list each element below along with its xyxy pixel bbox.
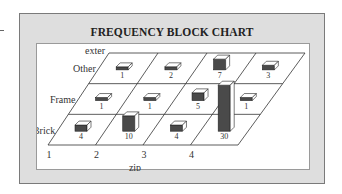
block-value: 7: [218, 71, 222, 80]
data-block: 1: [144, 94, 160, 111]
block-value: 1: [148, 102, 152, 111]
block-value: 4: [174, 132, 178, 141]
y-axis-title: exter: [85, 45, 106, 56]
block-chart-svg: exterOtherFrameBrick1234zip1273115141043…: [37, 44, 311, 171]
chart-title: FREQUENCY BLOCK CHART: [20, 26, 324, 38]
data-block: 4: [75, 121, 91, 141]
data-block: 30: [218, 81, 234, 141]
row-label-other: Other: [73, 63, 96, 74]
block-value: 2: [169, 71, 173, 80]
data-block: 4: [170, 121, 186, 141]
axis-tick-mark: [0, 30, 4, 31]
data-block: 2: [165, 63, 181, 80]
block-value: 5: [196, 102, 200, 111]
data-block: 3: [262, 61, 278, 80]
data-block: 1: [240, 94, 256, 111]
col-label-1: 1: [46, 149, 51, 160]
row-label-brick: Brick: [37, 125, 55, 136]
block-value: 1: [244, 102, 248, 111]
plot-area: exterOtherFrameBrick1234zip1273115141043…: [36, 43, 310, 170]
data-block: 1: [116, 63, 132, 80]
data-block: 1: [96, 94, 112, 111]
col-label-4: 4: [189, 149, 194, 160]
x-axis-title: zip: [129, 162, 141, 171]
data-block: 10: [123, 112, 139, 141]
block-value: 1: [120, 71, 124, 80]
data-block: 7: [214, 55, 230, 80]
chart-frame: FREQUENCY BLOCK CHART exterOtherFrameBri…: [19, 13, 325, 184]
row-label-frame: Frame: [50, 94, 76, 105]
col-label-2: 2: [94, 149, 99, 160]
block-value: 30: [220, 132, 228, 141]
block-value: 4: [79, 132, 83, 141]
data-block: 5: [192, 89, 208, 111]
block-value: 3: [266, 71, 270, 80]
block-value: 10: [125, 132, 133, 141]
col-label-3: 3: [141, 149, 146, 160]
block-value: 1: [100, 102, 104, 111]
